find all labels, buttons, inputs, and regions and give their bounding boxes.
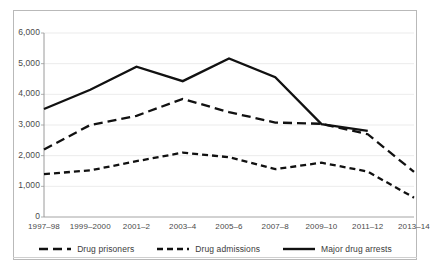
series-line-drug-prisoners <box>44 99 414 172</box>
y-axis-tick-label: 2,000 <box>0 150 40 160</box>
y-axis-tick-label: 1,000 <box>0 180 40 190</box>
legend-divider <box>13 257 417 258</box>
y-axis-tick-label: 3,000 <box>0 119 40 129</box>
series-line-drug-admissions <box>44 153 414 198</box>
legend-label: Drug admissions <box>195 244 260 254</box>
legend-label: Drug prisoners <box>77 244 134 254</box>
line-chart-canvas <box>0 0 433 276</box>
legend-label: Major drug arrests <box>321 244 392 254</box>
y-axis-tick-label: 0 <box>0 211 40 221</box>
y-axis-tick-label: 5,000 <box>0 58 40 68</box>
legend-swatch-drug-prisoners <box>38 244 72 254</box>
axis-lines <box>41 33 44 217</box>
legend-item[interactable]: Drug admissions <box>156 244 260 254</box>
y-axis-tick-label: 4,000 <box>0 88 40 98</box>
legend-swatch-drug-admissions <box>156 244 190 254</box>
chart-legend: Drug prisonersDrug admissionsMajor drug … <box>13 240 417 258</box>
legend-item[interactable]: Drug prisoners <box>38 244 134 254</box>
gridlines <box>44 33 414 217</box>
legend-swatch-major-drug-arrests <box>282 244 316 254</box>
x-axis-tick-label: 2013–14 <box>386 222 433 231</box>
chart-figure: 01,0002,0003,0004,0005,0006,000 1997–981… <box>0 0 433 276</box>
y-axis-tick-label: 6,000 <box>0 27 40 37</box>
legend-item[interactable]: Major drug arrests <box>282 244 392 254</box>
series-layer <box>44 58 414 197</box>
